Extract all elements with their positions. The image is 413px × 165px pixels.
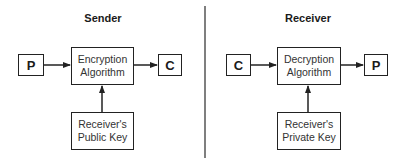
- decryption-line1: Decryption: [284, 53, 334, 66]
- sender-ciphertext-box: C: [158, 54, 182, 76]
- private-key-box: Receiver's Private Key: [277, 112, 341, 150]
- receiver-ciphertext-label: C: [234, 58, 243, 73]
- encryption-line2: Algorithm: [78, 66, 128, 79]
- encryption-algorithm-box: Encryption Algorithm: [71, 47, 134, 85]
- sender-title: Sender: [53, 12, 153, 24]
- public-key-box: Receiver's Public Key: [71, 112, 134, 150]
- public-key-line2: Public Key: [78, 131, 128, 144]
- sender-plaintext-box: P: [18, 54, 44, 76]
- decryption-algorithm-box: Decryption Algorithm: [277, 47, 341, 85]
- receiver-ciphertext-box: C: [226, 54, 251, 76]
- public-key-line1: Receiver's: [78, 118, 128, 131]
- private-key-line2: Private Key: [282, 131, 336, 144]
- receiver-title: Receiver: [258, 12, 358, 24]
- decryption-line2: Algorithm: [284, 66, 334, 79]
- receiver-plaintext-label: P: [372, 58, 381, 73]
- connector-layer: [0, 0, 413, 165]
- receiver-plaintext-box: P: [364, 54, 388, 76]
- encryption-line1: Encryption: [78, 53, 128, 66]
- sender-plaintext-label: P: [27, 58, 36, 73]
- private-key-line1: Receiver's: [282, 118, 336, 131]
- sender-ciphertext-label: C: [165, 58, 174, 73]
